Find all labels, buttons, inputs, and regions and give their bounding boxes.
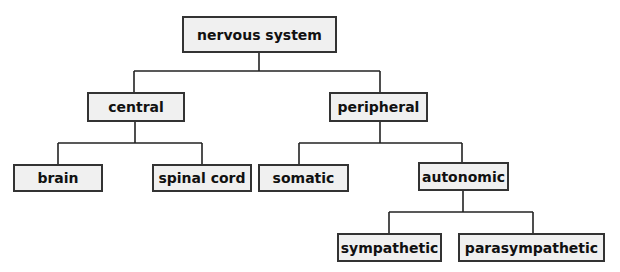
node-spinal-cord: spinal cord xyxy=(152,164,252,192)
node-brain: brain xyxy=(13,164,103,192)
node-sympathetic: sympathetic xyxy=(337,233,442,262)
node-nervous-system: nervous system xyxy=(182,16,337,53)
node-autonomic: autonomic xyxy=(418,162,509,191)
nervous-system-tree-diagram: nervous system central peripheral brain … xyxy=(0,0,620,272)
node-peripheral: peripheral xyxy=(329,92,428,122)
node-parasympathetic: parasympathetic xyxy=(458,233,605,262)
node-somatic: somatic xyxy=(258,164,349,192)
node-central: central xyxy=(87,92,185,122)
